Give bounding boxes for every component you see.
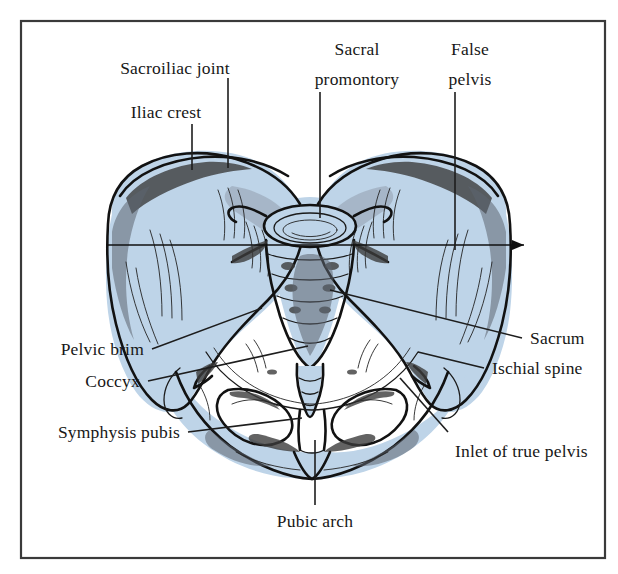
anatomy-figure: Sacroiliac joint Iliac crest Sacral prom… (0, 0, 618, 574)
label-ischial-spine: Ischial spine (492, 358, 583, 378)
label-pelvic-brim: Pelvic brim (61, 339, 145, 359)
pelvis-diagram-svg: Sacroiliac joint Iliac crest Sacral prom… (0, 0, 618, 574)
label-sacral-promontory-line1: Sacral (335, 39, 380, 59)
label-sacroiliac-joint: Sacroiliac joint (120, 58, 230, 78)
label-sacral-promontory-line2: promontory (315, 69, 400, 89)
label-sacrum: Sacrum (530, 328, 585, 348)
label-iliac-crest: Iliac crest (131, 102, 202, 122)
label-coccyx: Coccyx (85, 371, 140, 391)
label-false-pelvis-line1: False (451, 39, 489, 59)
label-inlet-of-true-pelvis: Inlet of true pelvis (455, 441, 588, 461)
label-false-pelvis-line2: pelvis (448, 69, 491, 89)
label-pubic-arch: Pubic arch (277, 511, 353, 531)
label-symphysis-pubis: Symphysis pubis (58, 422, 180, 442)
